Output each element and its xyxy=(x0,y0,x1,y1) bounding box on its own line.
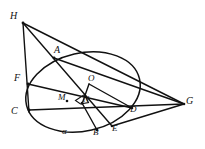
label-alpha-annotation: α xyxy=(62,127,67,136)
label-point-M: M xyxy=(58,93,66,102)
segment-C-G xyxy=(29,104,184,110)
label-point-D: D xyxy=(130,105,137,114)
geometry-canvas xyxy=(0,0,205,149)
label-point-E: E xyxy=(112,124,118,133)
point-A xyxy=(53,57,56,60)
point-G xyxy=(183,103,186,106)
geometry-figure: H A F C O M N D G B E α xyxy=(0,0,205,149)
point-H xyxy=(22,22,25,25)
point-F xyxy=(27,83,30,86)
label-point-G: G xyxy=(186,96,193,106)
point-C xyxy=(28,109,31,112)
segment-O-D xyxy=(89,84,132,108)
point-markers xyxy=(22,22,186,132)
segment-group xyxy=(23,23,184,130)
label-point-B: B xyxy=(93,128,99,137)
label-point-F: F xyxy=(14,73,20,83)
label-point-N: N xyxy=(83,95,89,104)
label-point-O: O xyxy=(88,74,95,83)
label-point-H: H xyxy=(10,11,17,21)
label-point-A: A xyxy=(54,45,60,55)
point-M xyxy=(66,100,69,103)
segment-F-D xyxy=(28,84,132,108)
label-point-C: C xyxy=(11,106,18,116)
